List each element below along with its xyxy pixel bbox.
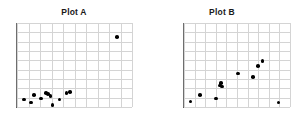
panel-plot-b: Plot B	[148, 0, 296, 125]
gridline-vertical	[86, 23, 87, 107]
data-point	[49, 94, 53, 98]
data-point	[251, 75, 255, 79]
gridline-horizontal	[184, 60, 290, 61]
plot-a-title: Plot A	[0, 7, 148, 17]
data-point	[256, 64, 260, 68]
data-point	[115, 35, 119, 39]
data-point	[261, 59, 265, 63]
gridline-horizontal	[17, 51, 132, 52]
plot-b-title: Plot B	[148, 7, 296, 17]
data-point	[198, 93, 202, 97]
plot-a-plot-area	[16, 23, 132, 108]
gridline-horizontal	[184, 107, 290, 108]
gridline-horizontal	[17, 60, 132, 61]
data-point	[236, 72, 240, 76]
gridline-vertical	[75, 23, 76, 107]
gridline-vertical	[121, 23, 122, 107]
gridline-vertical	[290, 23, 291, 107]
gridline-horizontal	[17, 88, 132, 89]
gridline-horizontal	[184, 23, 290, 24]
gridline-horizontal	[184, 70, 290, 71]
gridline-vertical	[237, 23, 238, 107]
data-point	[277, 101, 281, 105]
data-point	[58, 98, 62, 102]
gridline-horizontal	[184, 42, 290, 43]
data-point	[51, 103, 55, 107]
gridline-horizontal	[17, 79, 132, 80]
gridline-vertical	[40, 23, 41, 107]
gridline-vertical	[205, 23, 206, 107]
gridline-horizontal	[17, 23, 132, 24]
gridline-horizontal	[17, 98, 132, 99]
data-point	[219, 81, 223, 85]
data-point	[22, 98, 26, 102]
gridline-horizontal	[184, 88, 290, 89]
data-point	[29, 101, 33, 105]
gridline-vertical	[216, 23, 217, 107]
gridline-vertical	[63, 23, 64, 107]
data-point	[220, 85, 224, 89]
scatter-plot-figure: Plot A Plot B	[0, 0, 296, 125]
gridline-horizontal	[17, 107, 132, 108]
data-point	[214, 97, 218, 101]
gridline-horizontal	[17, 32, 132, 33]
gridline-horizontal	[17, 42, 132, 43]
gridline-horizontal	[184, 32, 290, 33]
panel-plot-a: Plot A	[0, 0, 148, 125]
gridline-vertical	[269, 23, 270, 107]
gridline-vertical	[195, 23, 196, 107]
data-point	[68, 90, 72, 94]
gridline-vertical	[226, 23, 227, 107]
gridline-vertical	[248, 23, 249, 107]
gridline-horizontal	[184, 98, 290, 99]
gridline-horizontal	[17, 70, 132, 71]
gridline-horizontal	[184, 51, 290, 52]
gridline-vertical	[109, 23, 110, 107]
data-point	[32, 93, 36, 97]
data-point	[39, 97, 43, 101]
plot-b-plot-area	[183, 23, 290, 108]
gridline-vertical	[279, 23, 280, 107]
data-point	[189, 100, 193, 104]
gridline-vertical	[132, 23, 133, 107]
gridline-vertical	[184, 23, 185, 107]
gridline-vertical	[98, 23, 99, 107]
gridline-vertical	[29, 23, 30, 107]
gridline-vertical	[17, 23, 18, 107]
gridline-horizontal	[184, 79, 290, 80]
